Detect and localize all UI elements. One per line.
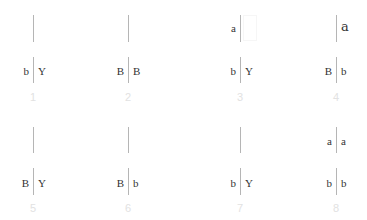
allele-top-right: a (341, 20, 355, 34)
chromosome-bottom-line (336, 57, 337, 83)
allele-top-right: a (341, 135, 355, 147)
allele-bottom-right: Y (245, 177, 259, 189)
allele-bottom-left: b (318, 177, 332, 189)
chromosome-bottom-line (128, 168, 129, 195)
panel-number: 8 (326, 202, 346, 214)
chromosome-top-line (128, 15, 129, 42)
chromosome-top-line (128, 127, 129, 153)
panel-number: 2 (118, 91, 138, 103)
allele-bottom-left: B (15, 177, 29, 189)
allele-bottom-right: Y (38, 177, 52, 189)
allele-bottom-left: B (110, 177, 124, 189)
panel-number: 4 (326, 91, 346, 103)
chromosome-top-line (240, 15, 241, 42)
allele-bottom-left: B (318, 65, 332, 77)
chromosome-bottom-line (336, 168, 337, 195)
panel-number: 3 (230, 91, 250, 103)
allele-bottom-right: Y (245, 65, 259, 77)
allele-top-left: a (222, 22, 236, 34)
allele-bottom-right: b (341, 177, 355, 189)
chromosome-bottom-line (128, 57, 129, 83)
panel-number: 6 (118, 202, 138, 214)
faint-box (243, 15, 257, 41)
allele-bottom-right: b (341, 65, 355, 77)
allele-bottom-right: b (133, 177, 147, 189)
allele-bottom-left: B (110, 65, 124, 77)
panel-number: 7 (230, 202, 250, 214)
chromosome-top-line (240, 127, 241, 153)
chromosome-top-line (336, 127, 337, 153)
allele-top-left: a (318, 135, 332, 147)
chromosome-bottom-line (240, 57, 241, 83)
chromosome-top-line (336, 15, 337, 42)
chromosome-bottom-line (240, 168, 241, 195)
chromosome-top-line (33, 127, 34, 153)
allele-bottom-left: b (222, 65, 236, 77)
panel-8: a a b b 8 (0, 0, 80, 108)
panel-number: 5 (23, 202, 43, 214)
allele-bottom-left: b (222, 177, 236, 189)
chromosome-bottom-line (33, 168, 34, 195)
allele-bottom-right: B (133, 65, 147, 77)
